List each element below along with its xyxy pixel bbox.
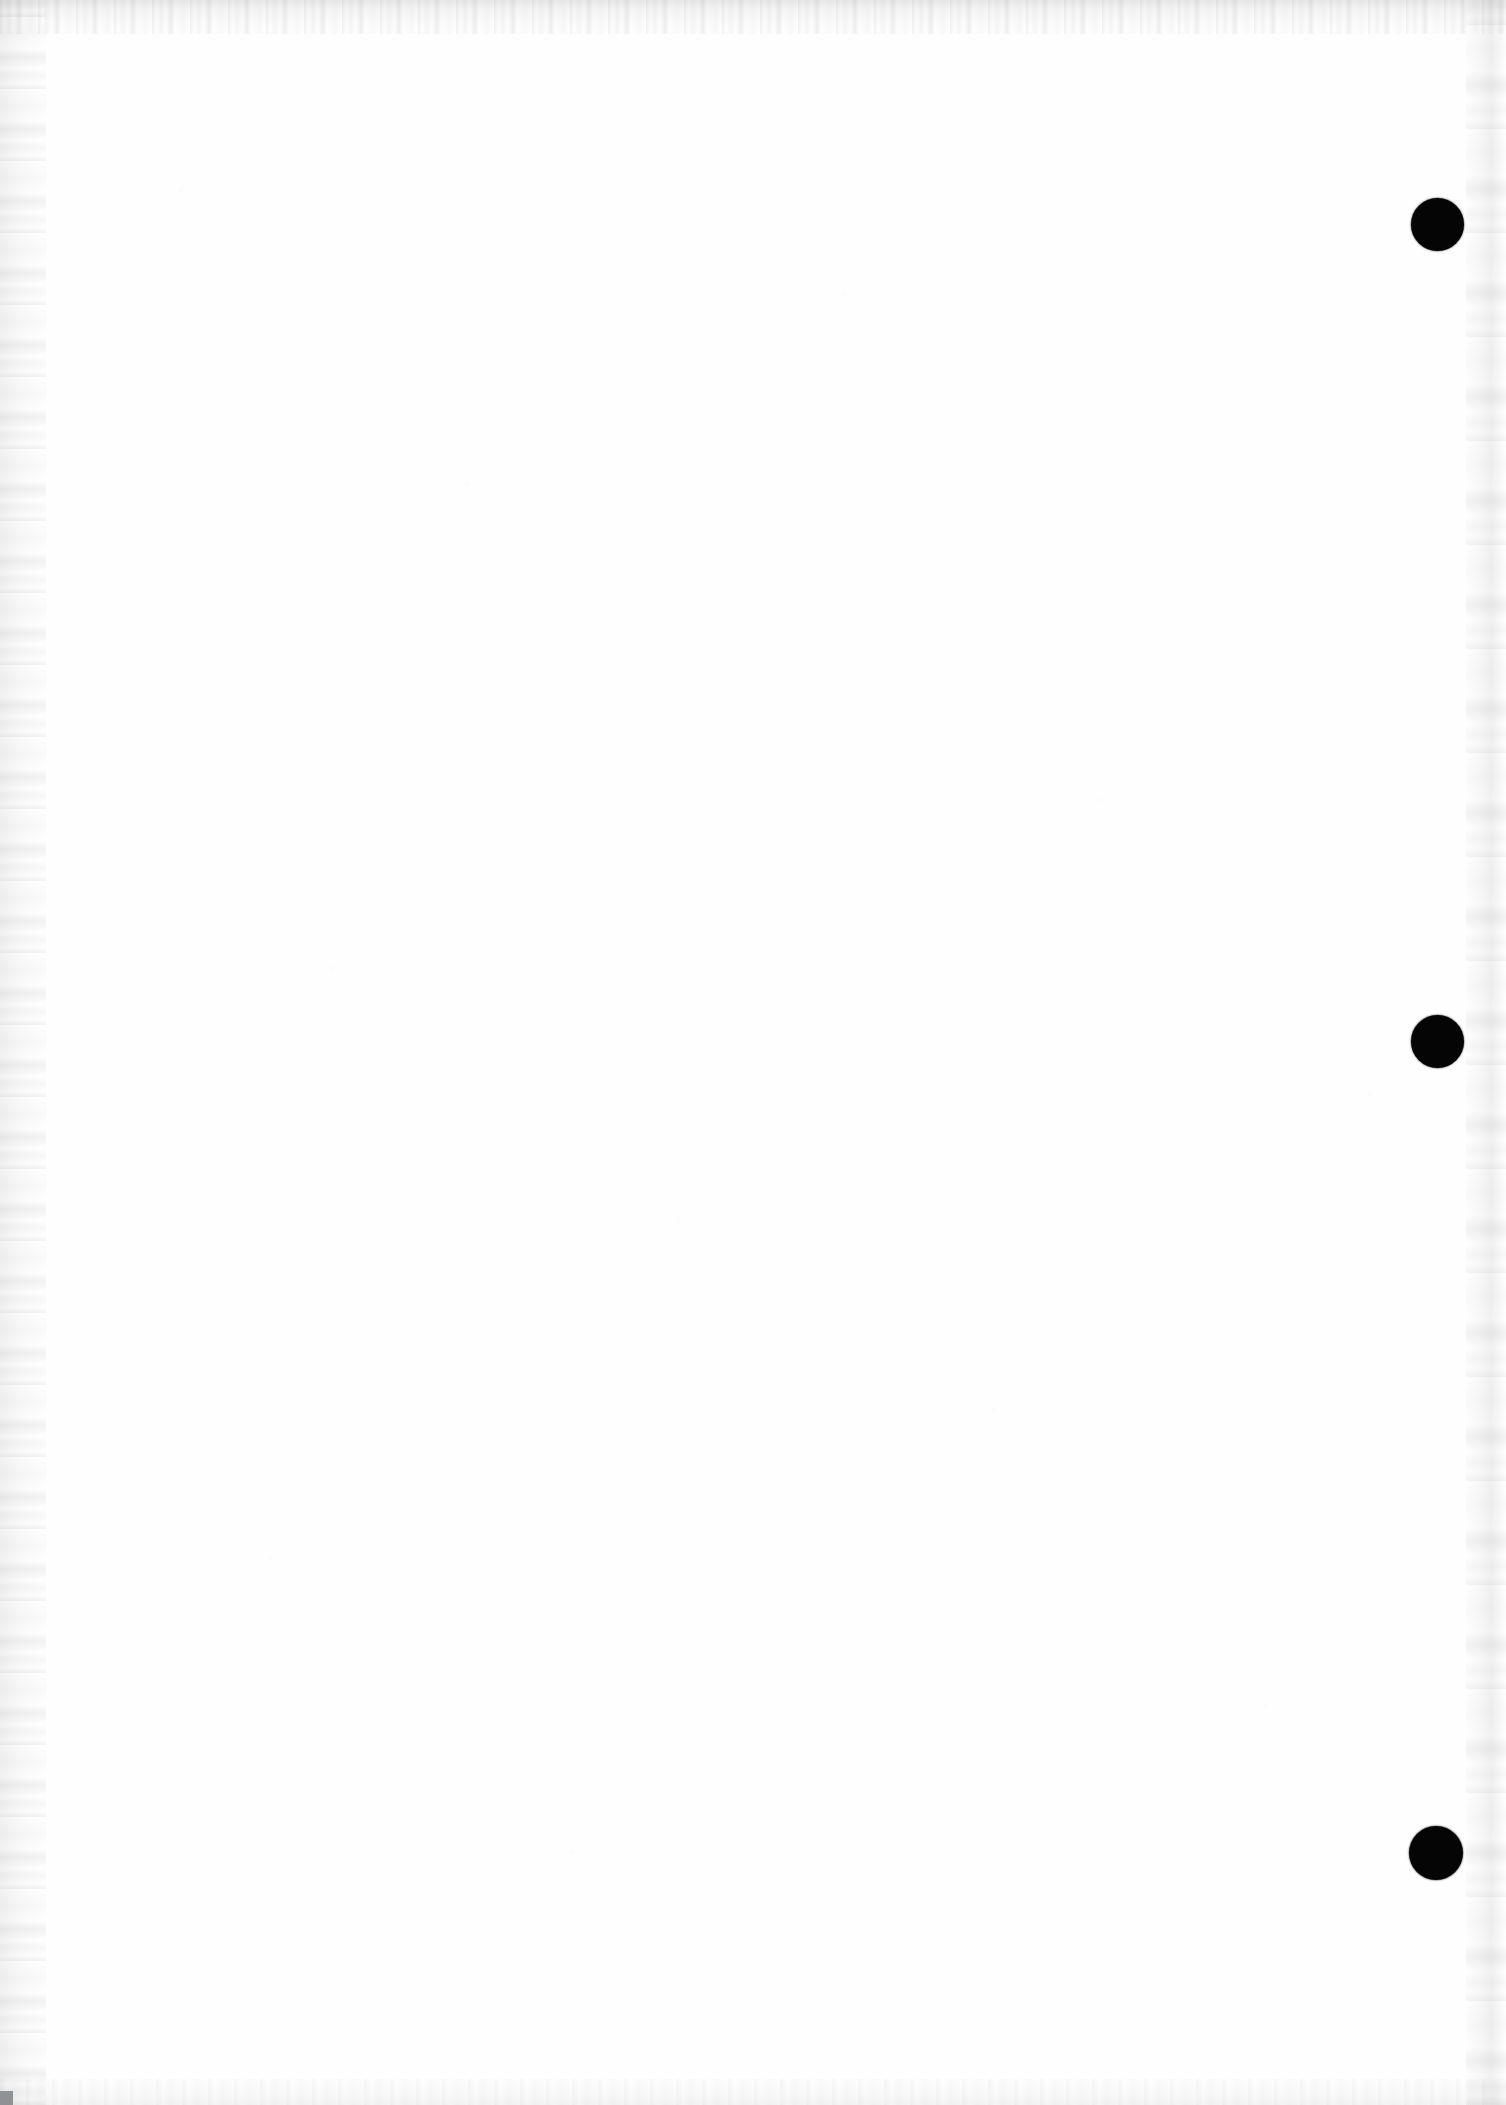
registration-mark-top <box>1411 198 1464 251</box>
registration-mark-middle <box>1411 1015 1464 1068</box>
registration-mark-layer <box>0 0 1506 2105</box>
registration-mark-bottom <box>1409 1826 1463 1880</box>
scanned-page <box>0 0 1506 2105</box>
